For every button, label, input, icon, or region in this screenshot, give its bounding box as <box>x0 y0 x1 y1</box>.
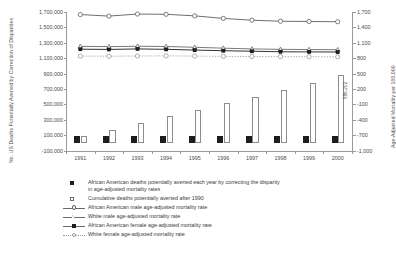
data-point-marker <box>193 48 197 52</box>
legend-label: White female age-adjusted mortality rate <box>86 231 185 238</box>
data-point-marker <box>221 16 225 20</box>
data-point-marker <box>307 50 311 54</box>
data-point-marker <box>164 47 168 51</box>
legend-item: African American male age-adjusted morta… <box>62 204 392 212</box>
data-point-marker <box>336 20 340 24</box>
legend-label: African American deaths potentially aver… <box>86 179 280 193</box>
legend-label: African American male age-adjusted morta… <box>86 204 207 211</box>
legend-label: African American female age-adjusted mor… <box>86 222 212 229</box>
data-point-marker <box>250 54 254 58</box>
data-point-marker <box>279 50 283 54</box>
data-point-marker <box>278 55 282 59</box>
data-point-marker <box>135 12 139 16</box>
data-point-marker <box>336 50 340 54</box>
line-series <box>78 54 340 59</box>
data-point-marker <box>78 12 82 16</box>
data-point-marker <box>193 14 197 18</box>
data-point-marker <box>78 47 82 51</box>
data-point-marker <box>193 54 197 58</box>
legend-item: White male age-adjusted mortality rate <box>62 213 392 221</box>
chart-legend: African American deaths potentially aver… <box>62 179 392 241</box>
data-point-marker <box>221 49 225 53</box>
legend-label: Cumulative deaths potentially averted af… <box>86 195 204 202</box>
data-point-marker <box>307 19 311 23</box>
data-point-marker <box>164 54 168 58</box>
data-point-marker <box>107 14 111 18</box>
data-point-marker <box>136 47 140 51</box>
legend-dotted-line-open-circle-icon <box>62 231 86 239</box>
data-point-marker <box>78 54 82 58</box>
data-point-marker <box>307 55 311 59</box>
legend-line-open-circle-icon <box>62 204 86 212</box>
data-point-marker <box>135 54 139 58</box>
data-point-marker <box>221 54 225 58</box>
legend-open-square-icon <box>62 195 86 203</box>
data-point-marker <box>164 12 168 16</box>
legend-item: African American deaths potentially aver… <box>62 179 392 193</box>
legend-item: Cumulative deaths potentially averted af… <box>62 195 392 203</box>
legend-item: White female age-adjusted mortality rate <box>62 231 392 239</box>
data-point-marker <box>250 49 254 53</box>
data-point-marker <box>107 48 111 52</box>
legend-item: African American female age-adjusted mor… <box>62 222 392 230</box>
legend-filled-square-icon <box>62 179 86 187</box>
data-point-marker <box>107 54 111 58</box>
data-point-marker <box>278 19 282 23</box>
data-point-marker <box>336 55 340 59</box>
legend-label: White male age-adjusted mortality rate <box>86 213 180 220</box>
legend-line-filled-square-icon <box>62 222 86 230</box>
legend-line-open-triangle-icon <box>62 213 86 221</box>
legend-label-line2: in age-adjusted mortality rates <box>88 186 280 193</box>
line-series <box>78 12 340 24</box>
data-point-marker <box>250 18 254 22</box>
